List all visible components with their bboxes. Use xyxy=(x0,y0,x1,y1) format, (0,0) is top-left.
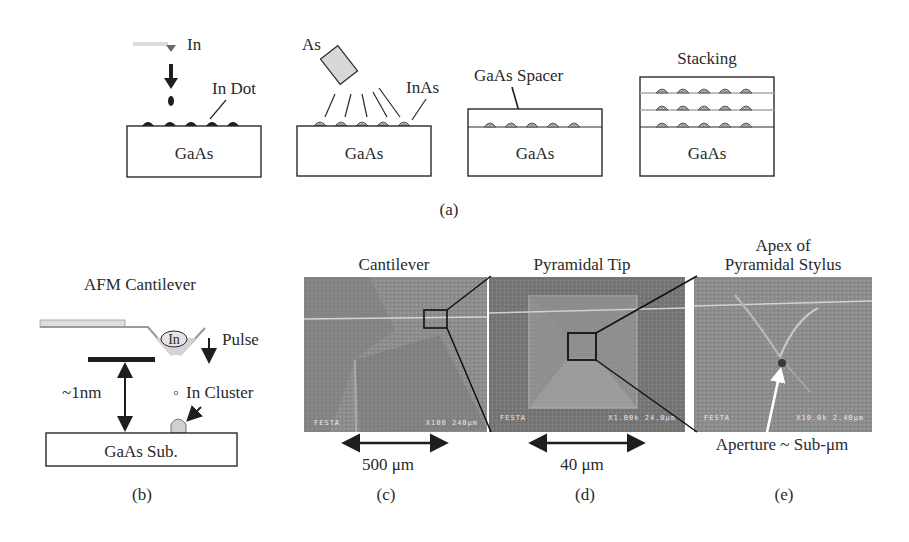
afm-cantilever-title: AFM Cantilever xyxy=(84,275,196,294)
sem-label-left-c: FESTA xyxy=(314,419,340,427)
spacer-stack-box xyxy=(468,109,602,176)
scale-label-d: 40 μm xyxy=(560,455,604,474)
step2-as-exposure: As InAs GaAs xyxy=(297,35,439,176)
aperture-label: Aperture ~ Sub-μm xyxy=(716,435,849,454)
tip-in-label: In xyxy=(168,332,180,347)
gaas-label-3: GaAs xyxy=(516,144,555,163)
apex-title-line1: Apex of xyxy=(755,236,811,255)
in-cluster-deposit xyxy=(171,419,186,433)
sem-label-right-d: X1.00k 24.0μm xyxy=(608,414,676,422)
as-flux-lines xyxy=(325,88,400,117)
in-droplet xyxy=(168,96,174,106)
sem-label-right-c: X100 240μm xyxy=(426,419,478,427)
apex-title-line2: Pyramidal Stylus xyxy=(725,255,842,274)
cluster-pointer-arrow-icon xyxy=(189,407,201,419)
gaas-label-4: GaAs xyxy=(688,144,727,163)
gaas-label-2: GaAs xyxy=(345,144,384,163)
sem-label-left-e: FESTA xyxy=(704,414,730,422)
in-source-nozzle-icon xyxy=(166,45,176,52)
in-source-label: In xyxy=(187,35,202,54)
panel-a: In In Dot GaAs As xyxy=(127,35,774,219)
panel-b: AFM Cantilever In Pulse ~1nm In Cluster … xyxy=(40,275,259,504)
as-source-cell xyxy=(320,46,357,85)
caption-a: (a) xyxy=(440,200,459,219)
sem-image-apex xyxy=(694,277,872,432)
caption-e: (e) xyxy=(775,485,794,504)
panel-e: Apex of Pyramidal Stylus FESTA X10.0k 2.… xyxy=(694,236,872,504)
step3-gaas-spacer: GaAs Spacer GaAs xyxy=(468,66,602,176)
caption-d: (d) xyxy=(575,485,595,504)
panel-c: Cantilever FESTA X100 240μm 500 μm (c) xyxy=(304,255,487,504)
as-source-label: As xyxy=(302,35,321,54)
sem-label-left-d: FESTA xyxy=(500,414,526,422)
caption-c: (c) xyxy=(377,485,396,504)
cantilever-title: Cantilever xyxy=(359,255,430,274)
in-cluster-label: In Cluster xyxy=(186,383,254,402)
gaas-spacer-label: GaAs Spacer xyxy=(474,66,564,85)
panel-d: Pyramidal Tip FESTA X1.00k 24.0μm 40 μm … xyxy=(489,255,685,504)
gaas-label-1: GaAs xyxy=(175,144,214,163)
in-cluster-particle xyxy=(174,391,178,395)
scale-label-c: 500 μm xyxy=(362,455,414,474)
caption-b: (b) xyxy=(132,485,152,504)
aperture-spot xyxy=(778,359,786,367)
in-source-bar xyxy=(133,42,168,46)
sem-label-right-e: X10.0k 2.40μm xyxy=(796,414,864,422)
gaas-sub-label: GaAs Sub. xyxy=(104,442,178,461)
step1-in-deposition: In In Dot GaAs xyxy=(127,35,261,177)
step4-stacking: Stacking GaAs xyxy=(640,49,774,176)
stacking-label: Stacking xyxy=(677,49,737,68)
in-dot-leader-line xyxy=(210,100,226,119)
sem-edge-highlight xyxy=(355,360,356,432)
pyramidal-tip-title: Pyramidal Tip xyxy=(534,255,631,274)
inas-label: InAs xyxy=(406,78,439,97)
reference-bar xyxy=(88,357,155,362)
gap-label: ~1nm xyxy=(62,383,101,402)
inas-leader-line xyxy=(412,99,426,120)
figure-canvas: In In Dot GaAs As xyxy=(0,0,909,542)
in-dot-label: In Dot xyxy=(212,79,256,98)
pulse-label: Pulse xyxy=(222,330,259,349)
down-arrow-icon xyxy=(164,78,178,89)
